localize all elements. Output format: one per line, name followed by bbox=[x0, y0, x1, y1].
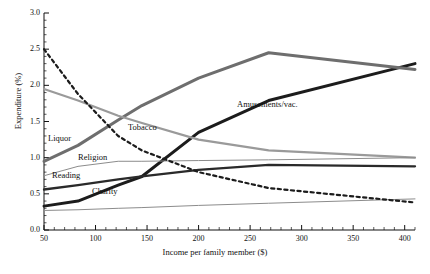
x-tick-label: 200 bbox=[184, 234, 214, 243]
x-tick-label: 300 bbox=[287, 234, 317, 243]
series-line-amusements-vac bbox=[44, 64, 415, 207]
series-line-tobacco bbox=[44, 89, 415, 158]
y-tick-label: 1.5 bbox=[14, 117, 40, 126]
series-label-amusements-vac: Amusements/vac. bbox=[237, 99, 298, 109]
series-label-charity: Charity bbox=[92, 186, 118, 196]
y-tick-label: 1.0 bbox=[14, 153, 40, 162]
x-axis-title: Income per family member ($) bbox=[0, 247, 430, 257]
y-tick-label: 3.0 bbox=[14, 8, 40, 17]
series-label-reading: Reading bbox=[52, 170, 80, 180]
chart-figure: Expenditure (%) Income per family member… bbox=[0, 0, 430, 274]
series-label-religion: Religion bbox=[78, 152, 107, 162]
series-line-charity bbox=[44, 199, 415, 211]
y-tick-label: 0.0 bbox=[14, 225, 40, 234]
y-tick-label: 2.0 bbox=[14, 80, 40, 89]
series-label-tobacco: Tobacco bbox=[128, 122, 157, 132]
x-tick-label: 400 bbox=[390, 234, 420, 243]
x-tick-label: 100 bbox=[81, 234, 111, 243]
series-line-unlabeled-dashed bbox=[44, 49, 415, 202]
x-tick-label: 50 bbox=[29, 234, 59, 243]
y-tick-label: 2.5 bbox=[14, 44, 40, 53]
y-axis-title: Expenditure (%) bbox=[13, 66, 23, 136]
x-tick-label: 350 bbox=[338, 234, 368, 243]
x-tick-label: 250 bbox=[235, 234, 265, 243]
x-tick-label: 150 bbox=[132, 234, 162, 243]
y-tick-label: 0.5 bbox=[14, 189, 40, 198]
series-label-liquor: Liquor bbox=[48, 133, 71, 143]
